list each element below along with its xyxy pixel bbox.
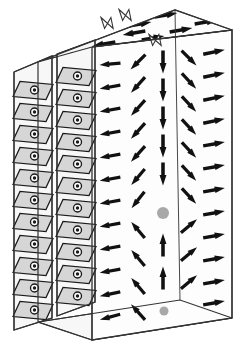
out-of-plane-symbol-p1-2	[13, 126, 53, 144]
out-of-plane-dot-icon	[76, 96, 79, 99]
out-of-plane-symbol-p1-7	[13, 236, 53, 254]
out-of-plane-dot-icon	[33, 308, 36, 311]
out-of-plane-dot-icon	[76, 140, 79, 143]
out-of-plane-symbol-p2-1	[56, 90, 96, 108]
out-of-plane-symbol-p2-7	[56, 222, 96, 240]
out-of-plane-dot-icon	[76, 118, 79, 121]
out-of-plane-dot-icon	[76, 184, 79, 187]
out-of-plane-symbol-p2-2	[56, 112, 96, 130]
out-of-plane-dot-icon	[76, 74, 79, 77]
out-of-plane-dot-icon	[33, 286, 36, 289]
out-of-plane-symbol-p1-10	[13, 302, 53, 320]
out-of-plane-symbol-p2-10	[56, 288, 96, 306]
out-of-plane-symbol-p2-4	[56, 156, 96, 174]
figure-root	[0, 0, 241, 351]
out-of-plane-symbol-p1-1	[13, 104, 53, 122]
out-of-plane-dot-icon	[33, 132, 36, 135]
out-of-plane-symbol-p2-9	[56, 266, 96, 284]
out-of-plane-dot-icon	[76, 162, 79, 165]
out-of-plane-dot-icon	[76, 250, 79, 253]
out-of-plane-symbol-p2-6	[56, 200, 96, 218]
out-of-plane-dot-icon	[33, 88, 36, 91]
out-of-plane-symbol-p1-6	[13, 214, 53, 232]
out-of-plane-dot-icon	[76, 228, 79, 231]
out-of-plane-dot-icon	[33, 264, 36, 267]
vortex-core-bottom	[160, 307, 169, 316]
out-of-plane-symbol-p1-0	[13, 82, 53, 100]
vortex-core-center	[157, 207, 169, 219]
out-of-plane-symbol-p2-8	[56, 244, 96, 262]
out-of-plane-dot-icon	[33, 110, 36, 113]
out-of-plane-dot-icon	[76, 206, 79, 209]
out-of-plane-dot-icon	[33, 220, 36, 223]
magnetic-domain-diagram	[0, 0, 241, 351]
out-of-plane-symbol-p2-5	[56, 178, 96, 196]
out-of-plane-dot-icon	[33, 198, 36, 201]
out-of-plane-symbol-p2-3	[56, 134, 96, 152]
out-of-plane-dot-icon	[33, 242, 36, 245]
out-of-plane-dot-icon	[76, 294, 79, 297]
out-of-plane-dot-icon	[33, 176, 36, 179]
out-of-plane-dot-icon	[33, 154, 36, 157]
out-of-plane-symbol-p1-9	[13, 280, 53, 298]
out-of-plane-symbol-p1-5	[13, 192, 53, 210]
out-of-plane-symbol-p1-8	[13, 258, 53, 276]
out-of-plane-symbol-p1-3	[13, 148, 53, 166]
out-of-plane-symbol-p2-0	[56, 68, 96, 86]
out-of-plane-symbol-p1-4	[13, 170, 53, 188]
out-of-plane-dot-icon	[76, 272, 79, 275]
